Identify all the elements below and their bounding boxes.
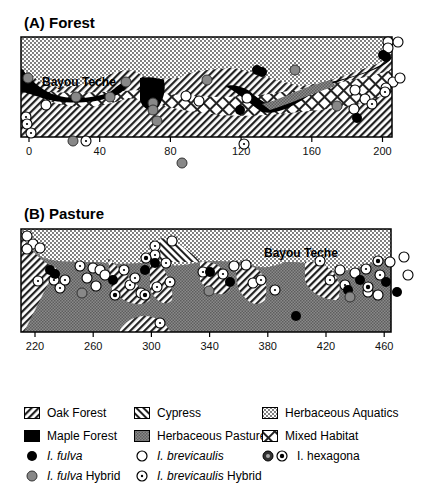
tick-label: 220 — [26, 340, 44, 352]
legend-label-suffix: Hybrid — [82, 469, 120, 483]
legend-label: I. fulva — [47, 449, 82, 463]
brevicaulis-marker — [181, 91, 191, 101]
fulva-hybrid-marker — [68, 136, 78, 146]
brevicaulis-hybrid-marker — [130, 273, 140, 283]
brevicaulis-hybrid-marker — [26, 128, 36, 138]
tick-label: 300 — [142, 340, 160, 352]
brevicaulis-marker — [35, 243, 45, 253]
fulva-hybrid-marker — [148, 105, 158, 115]
legend-hexagona: I. hexagona — [262, 449, 360, 463]
fulva-hybrid-marker — [121, 77, 131, 87]
fulva-marker — [257, 67, 267, 77]
brevicaulis-hybrid-marker — [161, 258, 171, 268]
fulva-hybrid-marker — [105, 92, 115, 102]
legend-label: Herbaceous Aquatics — [285, 406, 398, 420]
legend-fulva: I. fulva — [26, 449, 82, 463]
legend-brevicaulis: I. brevicaulis — [136, 449, 224, 463]
legend-label: I. hexagona — [297, 449, 360, 463]
bayou-teche-label: Bayou Teche — [264, 246, 338, 260]
fulva-marker — [205, 267, 215, 277]
brevicaulis-marker — [395, 73, 405, 83]
legend-cypress: Cypress — [134, 406, 201, 420]
fulva-hybrid-marker — [152, 116, 162, 126]
brevicaulis-marker — [91, 281, 101, 291]
maple-forest-swatch — [24, 430, 40, 442]
hexagona-marker-icon — [262, 450, 290, 462]
tick-label: 160 — [303, 145, 321, 157]
brevicaulis-marker — [241, 260, 251, 270]
legend-mixed-habitat: Mixed Habitat — [262, 429, 358, 443]
legend-oak-forest: Oak Forest — [24, 406, 106, 420]
brevicaulis-marker — [403, 270, 413, 280]
habitat-maps: Bayou Teche 04080120160200 Bayou Teche 2… — [0, 0, 426, 400]
brevicaulis-hybrid-marker — [165, 277, 175, 287]
brevicaulis-hybrid-marker — [367, 99, 377, 109]
brevicaulis-marker — [399, 252, 409, 262]
brevicaulis-hybrid-marker — [380, 87, 390, 97]
legend-label: Mixed Habitat — [285, 429, 358, 443]
tick-label: 420 — [317, 340, 335, 352]
hexagona-marker — [140, 290, 150, 300]
legend-label: Cypress — [157, 406, 201, 420]
tick-label: 460 — [375, 340, 393, 352]
tick-label: 340 — [200, 340, 218, 352]
brevicaulis-marker — [41, 100, 51, 110]
fulva-marker — [392, 287, 402, 297]
brevicaulis-hybrid-marker — [119, 265, 129, 275]
brevicaulis-marker — [22, 244, 32, 254]
fulva-hybrid-marker — [290, 65, 300, 75]
brevicaulis-marker — [242, 93, 252, 103]
hexagona-marker — [363, 282, 373, 292]
fulva-marker — [352, 113, 362, 123]
fulva-hybrid-marker — [23, 73, 33, 83]
legend-herbaceous-pasture: Herbaceous Pasture — [134, 429, 266, 443]
tick-label: 380 — [259, 340, 277, 352]
cypress-swatch — [134, 407, 150, 419]
brevicaulis-hybrid-marker — [155, 318, 165, 328]
fulva-marker — [381, 52, 391, 62]
herbaceous-pasture-swatch — [134, 430, 150, 442]
oak-forest-swatch — [24, 407, 40, 419]
fulva-marker — [225, 277, 235, 287]
legend-label: I. fulva — [47, 469, 82, 483]
legend: Oak Forest Cypress Herbaceous Aquatics M… — [24, 406, 424, 476]
fulva-marker — [291, 311, 301, 321]
brevicaulis-hybrid-marker — [81, 136, 91, 146]
brevicaulis-marker — [349, 104, 359, 114]
fulva-marker — [150, 258, 160, 268]
hexagona-marker — [110, 290, 120, 300]
tick-label: 0 — [26, 145, 32, 157]
bayou-teche-label: Bayou Teche — [42, 75, 116, 89]
brevicaulis-marker — [194, 96, 204, 106]
panel-a-map: Bayou Teche 04080120160200 — [21, 37, 405, 168]
tick-label: 260 — [84, 340, 102, 352]
legend-label: Oak Forest — [47, 406, 106, 420]
legend-brevicaulis-hybrid: I. brevicaulis Hybrid — [136, 469, 262, 483]
fulva-marker — [108, 275, 118, 285]
tick-label: 80 — [164, 145, 176, 157]
brevicaulis-hybrid-marker — [152, 282, 162, 292]
fulva-hybrid-marker — [202, 75, 212, 85]
legend-label: I. brevicaulis — [157, 449, 224, 463]
fulva-hybrid-marker — [71, 92, 81, 102]
tick-label: 40 — [94, 145, 106, 157]
brevicaulis-hybrid-marker — [256, 275, 266, 285]
fulva-marker-icon — [26, 450, 40, 462]
fulva-hybrid-marker — [177, 158, 187, 168]
herbaceous-aquatics-swatch — [262, 407, 278, 419]
brevicaulis-marker — [350, 85, 360, 95]
brevicaulis-marker — [229, 261, 239, 271]
legend-label: I. brevicaulis — [157, 469, 224, 483]
panel-b-map: Bayou Teche 220260300340380420460 — [21, 229, 413, 352]
fulva-hybrid-marker-icon — [26, 470, 40, 482]
fulva-marker — [235, 105, 245, 115]
fulva-hybrid-marker — [345, 292, 355, 302]
brevicaulis-hybrid-marker — [325, 275, 335, 285]
brevicaulis-hybrid-marker-icon — [136, 470, 150, 482]
legend-label-suffix: Hybrid — [224, 469, 262, 483]
brevicaulis-hybrid-marker — [315, 256, 325, 266]
brevicaulis-hybrid-marker — [270, 285, 280, 295]
tick-label: 200 — [373, 145, 391, 157]
brevicaulis-hybrid-marker — [239, 139, 249, 149]
brevicaulis-marker — [373, 290, 383, 300]
